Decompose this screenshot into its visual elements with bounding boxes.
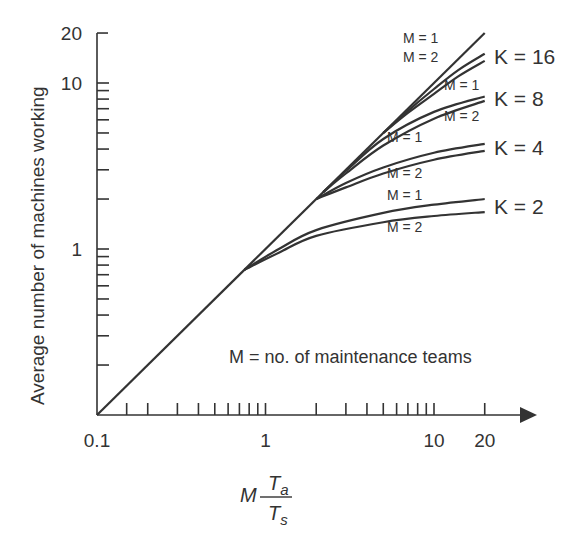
x-tick-label: 1 <box>260 430 271 451</box>
label-m: M = 1 <box>387 129 423 145</box>
chart-canvas: 110200.111020Average number of machines … <box>0 0 561 539</box>
label-k2: K = 2 <box>494 195 544 218</box>
annotation-maintenance-teams: M = no. of maintenance teams <box>229 347 472 367</box>
label-m: M = 2 <box>387 219 423 235</box>
x-tick-label: 0.1 <box>84 430 110 451</box>
svg-text:M: M <box>240 484 257 506</box>
label-m: M = 2 <box>444 108 480 124</box>
x-axis-title: MTaTs <box>240 472 292 528</box>
curve-k2-m2 <box>244 212 484 270</box>
svg-text:Ta: Ta <box>268 472 289 498</box>
label-k8: K = 8 <box>494 87 544 110</box>
y-tick-label: 10 <box>61 73 82 94</box>
labels: K = 16K = 8K = 4K = 2M = 1M = 2M = 1M = … <box>229 30 555 367</box>
label-m: M = 1 <box>403 30 439 46</box>
label-k16: K = 16 <box>494 45 555 68</box>
label-k4: K = 4 <box>494 136 544 159</box>
y-tick-label: 1 <box>71 239 82 260</box>
label-m: M = 1 <box>387 187 423 203</box>
svg-text:Ts: Ts <box>268 502 288 528</box>
y-axis-title: Average number of machines working <box>27 86 48 405</box>
x-tick-label: 20 <box>474 430 495 451</box>
x-axis-arrow-icon <box>520 407 537 423</box>
axes: 110200.111020Average number of machines … <box>27 23 537 528</box>
y-tick-label: 20 <box>61 23 82 44</box>
x-tick-label: 10 <box>423 430 444 451</box>
label-m: M = 1 <box>444 77 480 93</box>
label-m: M = 2 <box>387 165 423 181</box>
label-m: M = 2 <box>403 49 439 65</box>
